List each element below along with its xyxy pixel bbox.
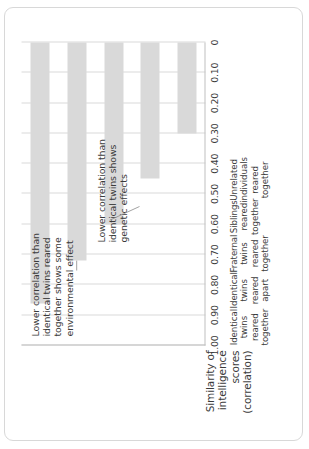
leader-line-genetic xyxy=(109,206,139,220)
chart-area: Similarity ofintelligencescores(correlat… xyxy=(7,10,300,438)
figure-card: Similarity ofintelligencescores(correlat… xyxy=(4,7,303,441)
rotated-chart-container: Similarity ofintelligencescores(correlat… xyxy=(7,10,300,438)
annotation-leader-lines xyxy=(7,10,300,438)
